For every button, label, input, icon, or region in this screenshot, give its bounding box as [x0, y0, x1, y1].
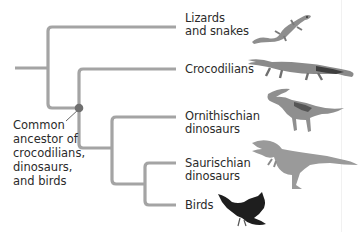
branch-crocodilians — [79, 69, 176, 108]
bird-icon — [216, 188, 276, 228]
taxon-label-ornithischian: Ornithischian dinosaurs — [185, 110, 260, 136]
taxon-label-birds: Birds — [185, 199, 213, 212]
branch-saurischian — [145, 163, 176, 205]
lizard-icon — [250, 10, 316, 46]
common-ancestor-label: Common ancestor of crocodilians, dinosau… — [13, 118, 85, 188]
crocodile-icon — [246, 54, 356, 82]
taxon-label-crocodilians: Crocodilians — [185, 63, 254, 76]
parasaurolophus-icon — [264, 84, 346, 136]
taxon-label-lizards: Lizards and snakes — [185, 12, 249, 38]
common-ancestor-node — [75, 104, 84, 113]
taxon-label-saurischian: Saurischian dinosaurs — [185, 157, 251, 183]
